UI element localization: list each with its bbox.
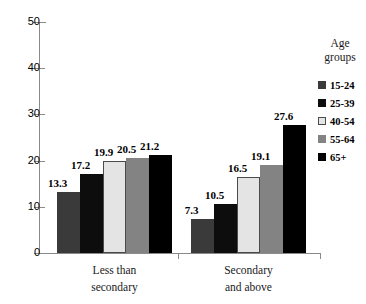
x-axis-category-label: Less thansecondary (55, 262, 175, 296)
legend-item-label: 40-54 (330, 116, 355, 127)
y-axis-tick-label: 0 (14, 247, 40, 258)
x-axis-category-label-line: secondary (55, 279, 175, 296)
legend-item-15-24[interactable]: 15-24 (318, 76, 366, 94)
bar-value-label: 17.2 (69, 160, 92, 171)
legend-swatch-icon (318, 117, 326, 125)
y-axis-tick-label: 10 (14, 201, 40, 212)
legend-item-55-64[interactable]: 55-64 (318, 130, 366, 148)
y-axis-tick-label: 40 (14, 62, 40, 73)
x-axis-category-label: Secondaryand above (189, 262, 309, 296)
legend-title-line-1: Age (318, 36, 362, 50)
legend-swatch-icon (318, 153, 326, 161)
legend-item-label: 65+ (330, 152, 346, 163)
legend-item-25-39[interactable]: 25-39 (318, 94, 366, 112)
legend: Age groups 15-2425-3940-5455-6465+ (318, 36, 366, 166)
x-axis-category-label-line: Less than (55, 262, 175, 279)
y-axis-tick-label: 50 (14, 16, 40, 27)
bar-value-label: 20.5 (115, 144, 138, 155)
legend-swatch-icon (318, 135, 326, 143)
legend-item-label: 25-39 (330, 98, 355, 109)
x-axis-tick (320, 253, 321, 259)
bar-value-label: 19.9 (92, 147, 115, 158)
bar (57, 192, 80, 253)
legend-item-label: 15-24 (330, 80, 355, 91)
bar-value-label: 13.3 (46, 178, 69, 189)
legend-swatch-icon (318, 99, 326, 107)
plot-area: 13.317.219.920.521.27.310.516.519.127.6 (0, 0, 366, 304)
bar-value-label: 16.5 (226, 163, 249, 174)
legend-item-65plus[interactable]: 65+ (318, 148, 366, 166)
y-axis-tick-label: 20 (14, 155, 40, 166)
bar-value-label: 21.2 (138, 141, 161, 152)
legend-title-line-2: groups (318, 50, 362, 64)
x-axis-line (39, 253, 320, 254)
bar-value-label: 10.5 (203, 190, 226, 201)
y-axis-line (39, 22, 40, 253)
bar (283, 125, 306, 253)
bar (237, 177, 260, 253)
bar (103, 161, 126, 253)
y-axis-tick-label: 30 (14, 108, 40, 119)
bar-value-label: 27.6 (272, 111, 295, 122)
bar-value-label: 7.3 (180, 205, 203, 216)
bar (149, 155, 172, 253)
x-axis-tick (178, 253, 179, 259)
bar (191, 219, 214, 253)
legend-item-40-54[interactable]: 40-54 (318, 112, 366, 130)
bar (126, 158, 149, 253)
legend-title: Age groups (318, 36, 362, 64)
legend-item-label: 55-64 (330, 134, 355, 145)
x-axis-category-label-line: and above (189, 279, 309, 296)
legend-swatch-icon (318, 81, 326, 89)
bar (80, 174, 103, 253)
legend-items: 15-2425-3940-5455-6465+ (318, 76, 366, 166)
bar (260, 165, 283, 253)
bar (214, 204, 237, 253)
bar-chart: 13.317.219.920.521.27.310.516.519.127.6 … (0, 0, 366, 304)
bar-value-label: 19.1 (249, 151, 272, 162)
x-axis-category-label-line: Secondary (189, 262, 309, 279)
